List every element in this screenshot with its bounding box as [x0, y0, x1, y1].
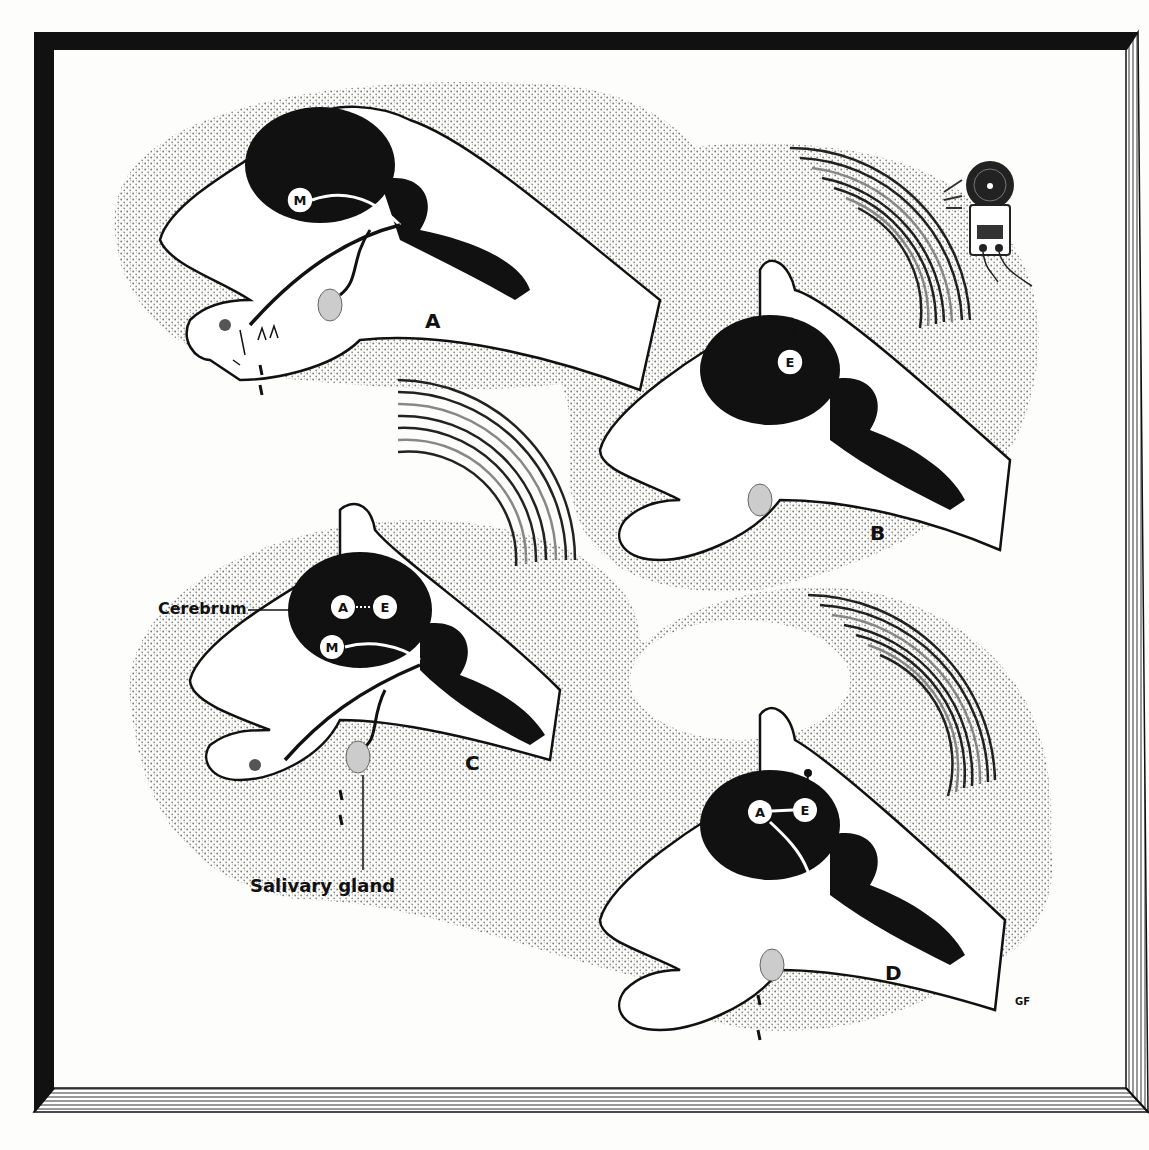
center-a: A [338, 600, 348, 615]
cerebrum-label: Cerebrum [158, 599, 247, 618]
conditioned-reflex-illustration: M A E B A E M C Ce [0, 0, 1149, 1150]
artist-signature: GF [1015, 996, 1030, 1007]
panel-label-c: C [465, 751, 480, 775]
center-m: M [294, 193, 307, 208]
panel-label-b: B [870, 521, 885, 545]
center-e-d: E [801, 803, 810, 818]
center-e-c: E [381, 600, 390, 615]
panel-label-d: D [885, 961, 902, 985]
center-a-d: A [755, 805, 765, 820]
center-m-c: M [326, 640, 339, 655]
salivary-gland-label: Salivary gland [250, 875, 395, 896]
center-e: E [786, 355, 795, 370]
panel-label-a: A [425, 309, 441, 333]
